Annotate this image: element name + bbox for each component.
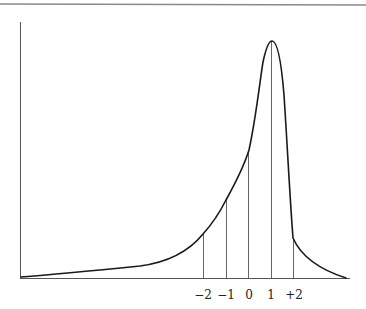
distribution-curve — [21, 41, 346, 278]
distribution-plot: −2 −1 0 1 +2 — [0, 0, 366, 309]
tick-label-0: 0 — [245, 288, 253, 302]
distribution-figure: −2 −1 0 1 +2 — [0, 0, 366, 309]
tick-label-1: 1 — [267, 288, 275, 302]
tick-label-minus-2: −2 — [194, 288, 212, 302]
tick-label-minus-1: −1 — [217, 288, 235, 302]
tick-label-plus-2: +2 — [285, 288, 303, 302]
top-rule — [0, 4, 366, 5]
